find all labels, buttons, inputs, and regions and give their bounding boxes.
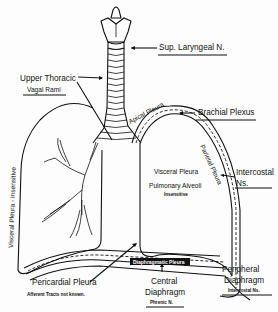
label-central: Central [151, 277, 178, 286]
label-peripheral-intercostal: Intercostal Ns. [228, 288, 260, 293]
pleura-innervation-diagram: Sup. Laryngeal N. Upper Thoracic Vagal R… [0, 0, 278, 312]
label-afferent-tracts: Afferent Tracts not known. [27, 292, 85, 297]
label-sup-laryngeal: Sup. Laryngeal N. [159, 43, 225, 52]
label-visceral-pleura: Visceral Pleura [154, 168, 199, 175]
label-apical-pleura: Apical Pleura [127, 100, 165, 125]
label-intercostal-ns: Ns. [236, 179, 248, 188]
label-insensitive: Insensitive [164, 192, 188, 197]
label-diaphragmatic-pleura: Diaphragmatic Pleura [133, 259, 185, 265]
label-peripheral: Peripheral [222, 265, 260, 274]
label-central-diaphragm: Diaphragm [145, 288, 185, 297]
label-upper-thoracic: Upper Thoracic [20, 74, 76, 83]
label-pericardial-pleura: Pericardial Pleura [32, 278, 97, 287]
larynx [101, 7, 131, 50]
label-intercostal: Intercostal [236, 168, 274, 177]
diagram-canvas: Sup. Laryngeal N. Upper Thoracic Vagal R… [0, 0, 278, 312]
label-vagal-rami: Vagal Rami [27, 86, 61, 94]
label-brachial-plexus: Brachial Plexus [198, 108, 254, 117]
trachea [93, 48, 141, 143]
label-parietal-pleura: Parietal Pleura [199, 143, 224, 185]
left-lung [18, 104, 102, 274]
label-visceral-pleura-insensitive: Visceral Pleura - insensitive [7, 167, 17, 248]
label-phrenic: Phrenic N. [150, 300, 173, 305]
label-pulmonary-alveoli: Pulmonary Alveoli [149, 182, 202, 190]
label-peripheral-diaphragm: Diaphragm [224, 276, 264, 285]
